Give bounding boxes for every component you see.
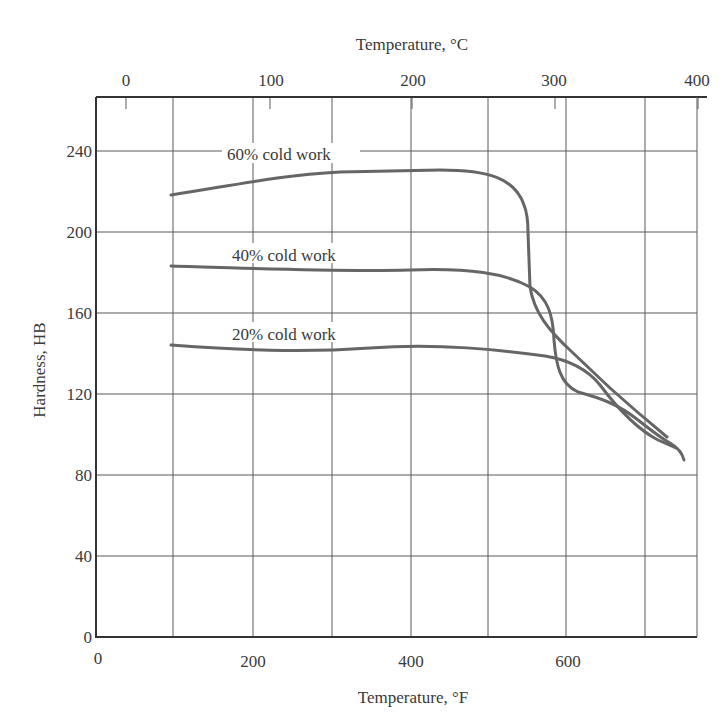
top-axis-ticks: 0 100 200 300 400 bbox=[122, 71, 710, 109]
y-tick-label: 240 bbox=[67, 142, 93, 161]
y-axis-ticks: 0 40 80 120 160 200 240 bbox=[67, 142, 93, 647]
top-tick-label: 100 bbox=[258, 71, 284, 90]
y-tick-label: 40 bbox=[75, 547, 92, 566]
y-tick-label: 0 bbox=[84, 628, 93, 647]
y-tick-label: 120 bbox=[67, 385, 93, 404]
hardness-vs-temperature-chart: Temperature, °C 0 100 200 300 400 bbox=[0, 0, 728, 724]
x-tick-label: 200 bbox=[240, 652, 266, 671]
x-tick-label: 0 bbox=[94, 649, 103, 668]
plot-frame bbox=[96, 97, 707, 638]
curve-40-percent-cold-work bbox=[171, 266, 684, 460]
top-tick-label: 0 bbox=[122, 71, 131, 90]
top-tick-label: 300 bbox=[541, 71, 567, 90]
curve-20-percent-cold-work bbox=[171, 345, 676, 448]
curve-label-60: 60% cold work bbox=[227, 145, 331, 164]
x-tick-label: 600 bbox=[555, 652, 581, 671]
curve-label-40: 40% cold work bbox=[232, 246, 336, 265]
top-tick-label: 400 bbox=[684, 71, 710, 90]
y-tick-label: 80 bbox=[75, 466, 92, 485]
y-axis-title: Hardness, HB bbox=[30, 322, 49, 417]
curve-label-20: 20% cold work bbox=[232, 325, 336, 344]
x-tick-label: 400 bbox=[398, 652, 424, 671]
y-tick-label: 200 bbox=[67, 223, 93, 242]
y-tick-label: 160 bbox=[67, 304, 93, 323]
gridlines bbox=[96, 97, 697, 637]
top-tick-label: 200 bbox=[400, 71, 426, 90]
x-axis-ticks: 0 200 400 600 bbox=[94, 649, 581, 671]
top-axis-title: Temperature, °C bbox=[356, 35, 468, 54]
x-axis-title: Temperature, °F bbox=[358, 688, 468, 707]
